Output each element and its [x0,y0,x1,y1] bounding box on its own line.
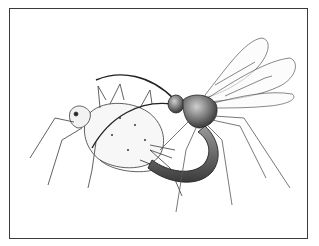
host-eye [74,112,78,116]
wasp-thorax [183,95,217,128]
wasp-and-host-illustration [0,0,319,246]
wasp-head [168,95,184,113]
host-abdomen [84,103,163,167]
wasp-antenna [96,75,175,100]
host-insect [30,84,182,196]
wasp-wings [205,38,295,108]
